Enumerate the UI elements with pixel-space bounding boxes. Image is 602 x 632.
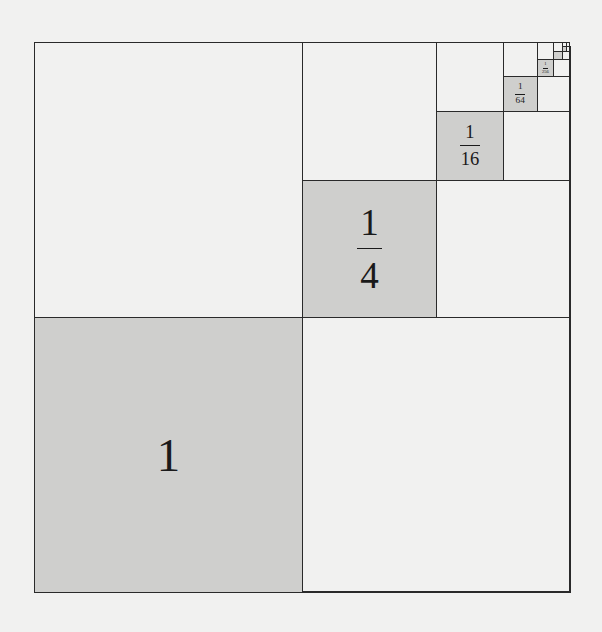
shaded-square-level-1: 14 <box>302 180 437 319</box>
shaded-square-level-2: 116 <box>436 111 504 181</box>
numerator: 1 <box>544 62 546 67</box>
fraction-bar <box>357 248 383 249</box>
empty-bottom-right-level-4 <box>553 59 571 77</box>
shaded-square-level-4: 1256 <box>537 59 555 77</box>
empty-top-left-level-4 <box>537 42 555 60</box>
numerator: 1 <box>360 204 379 241</box>
shaded-square-level-3: 164 <box>503 76 538 111</box>
denominator: 64 <box>516 96 525 105</box>
area-label: 1 <box>35 318 302 592</box>
empty-top-left-level-1 <box>302 42 437 181</box>
area-label: 14 <box>303 181 436 318</box>
empty-bottom-right-level-2 <box>503 111 571 181</box>
empty-top-left-level-0 <box>34 42 303 318</box>
fraction-bar <box>460 145 480 146</box>
empty-bottom-right-level-1 <box>436 180 571 319</box>
area-label: 164 <box>504 77 537 110</box>
whole-label: 1 <box>157 432 180 479</box>
nested-squares-diagram: 1141161641256 <box>34 42 570 592</box>
area-label <box>554 52 561 60</box>
empty-top-left-level-3 <box>503 42 538 77</box>
empty-bottom-right-level-3 <box>537 76 572 111</box>
shaded-square-level-0: 1 <box>34 317 303 593</box>
denominator: 256 <box>542 70 549 75</box>
empty-top-left-level-2 <box>436 42 504 112</box>
empty-bottom-right-level-5 <box>562 51 571 61</box>
denominator: 16 <box>461 150 480 169</box>
numerator: 1 <box>465 123 474 142</box>
fraction-bar <box>515 94 525 95</box>
area-label: 116 <box>437 112 503 180</box>
denominator: 4 <box>360 257 379 294</box>
area-label: 1256 <box>538 60 554 76</box>
numerator: 1 <box>518 82 523 91</box>
empty-bottom-right-level-0 <box>302 317 571 593</box>
empty-bottom-right-level-6 <box>566 46 571 51</box>
